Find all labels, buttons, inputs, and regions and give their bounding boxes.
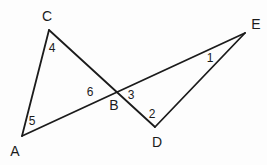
angle-label-1: 1 [207, 52, 214, 64]
vertex-label-d: D [152, 135, 162, 149]
angle-label-5: 5 [29, 115, 36, 127]
segment-cd [49, 30, 155, 127]
angle-label-3: 3 [128, 89, 135, 101]
vertex-label-a: A [10, 144, 19, 158]
angle-label-4: 4 [49, 42, 56, 54]
vertex-label-b: B [109, 98, 118, 112]
figure-canvas [0, 0, 267, 165]
segment-de [155, 33, 245, 127]
vertex-label-c: C [42, 9, 52, 23]
vertex-label-e: E [251, 17, 260, 31]
angle-label-2: 2 [149, 108, 156, 120]
geometry-figure: CEBDA 416325 [0, 0, 267, 165]
angle-label-6: 6 [87, 86, 94, 98]
